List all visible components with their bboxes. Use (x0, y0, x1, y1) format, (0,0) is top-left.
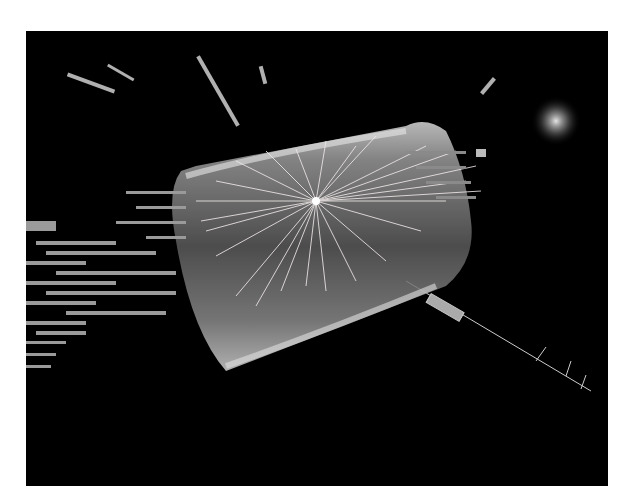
collision-event-render (26, 31, 608, 411)
upper-bars (67, 55, 496, 126)
energy-cluster (531, 96, 581, 146)
collision-event-image: Black-and-white rendering of a particle … (26, 31, 608, 486)
collision-vertex (312, 197, 320, 205)
detector-cylinder (172, 122, 472, 371)
calorimeter-hits (26, 191, 186, 368)
muon-track (406, 281, 591, 391)
